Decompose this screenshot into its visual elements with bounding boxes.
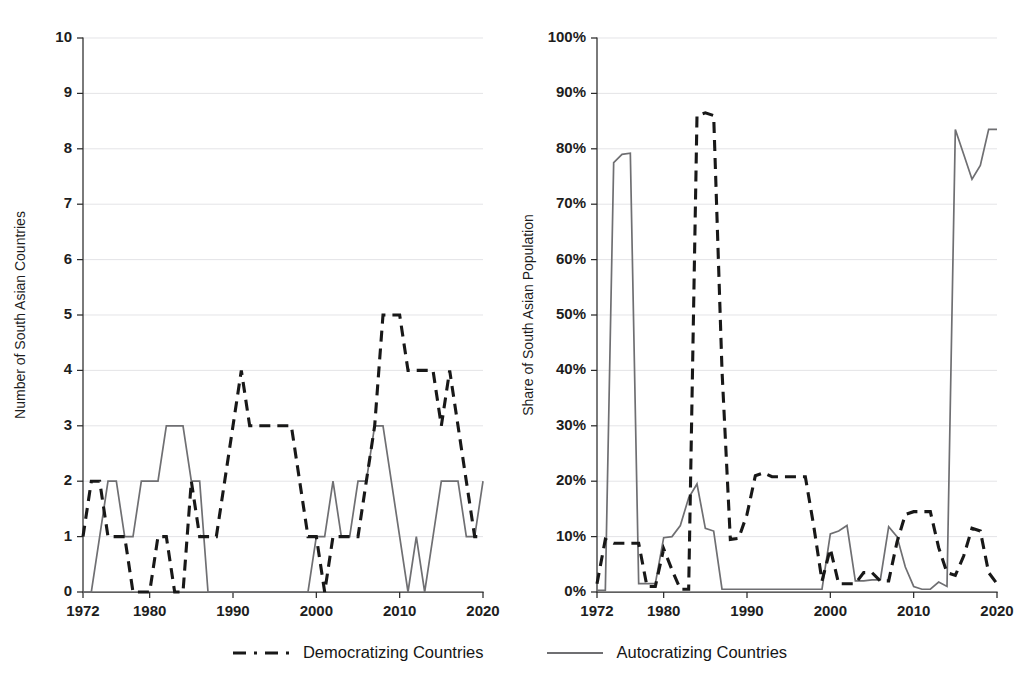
left-xticks: 197219801990200020102020	[66, 592, 499, 619]
x-tick-label: 2010	[897, 602, 930, 619]
y-tick-label: 0%	[564, 582, 586, 599]
right-gridlines	[597, 38, 997, 537]
y-tick-label: 20%	[556, 471, 586, 488]
y-tick-label: 2	[64, 471, 72, 488]
x-tick-label: 2000	[814, 602, 847, 619]
y-tick-label: 10%	[556, 527, 586, 544]
panel-right-population-share: 0%10%20%30%40%50%60%70%80%90%100% 197219…	[510, 0, 1019, 618]
y-tick-label: 90%	[556, 83, 586, 100]
left-y-axis-title: Number of South Asian Countries	[12, 211, 28, 419]
x-tick-label: 2020	[466, 602, 499, 619]
y-tick-label: 9	[64, 83, 72, 100]
right-yticks: 0%10%20%30%40%50%60%70%80%90%100%	[548, 28, 597, 599]
y-tick-label: 3	[64, 416, 72, 433]
chart-right-svg: 0%10%20%30%40%50%60%70%80%90%100% 197219…	[510, 0, 1019, 618]
panel-left-country-counts: 012345678910 197219801990200020102020 Nu…	[0, 0, 510, 618]
legend-label-autocratizing: Autocratizing Countries	[617, 643, 788, 662]
y-tick-label: 100%	[548, 28, 586, 45]
x-tick-label: 2020	[980, 602, 1013, 619]
y-tick-label: 4	[64, 360, 73, 377]
y-tick-label: 50%	[556, 305, 586, 322]
y-tick-label: 6	[64, 250, 72, 267]
legend-label-democratizing: Democratizing Countries	[303, 643, 484, 662]
legend-item-autocratizing: Autocratizing Countries	[546, 643, 788, 662]
y-tick-label: 7	[64, 194, 72, 211]
x-tick-label: 1980	[647, 602, 680, 619]
legend-item-democratizing: Democratizing Countries	[232, 643, 484, 662]
x-tick-label: 2010	[383, 602, 416, 619]
legend-swatch-solid-icon	[546, 647, 604, 659]
x-tick-label: 1972	[66, 602, 99, 619]
y-tick-label: 1	[64, 527, 72, 544]
left-yticks: 012345678910	[55, 28, 83, 599]
y-tick-label: 40%	[556, 360, 586, 377]
legend-swatch-dashed-icon	[232, 647, 290, 659]
y-tick-label: 70%	[556, 194, 586, 211]
y-tick-label: 0	[64, 582, 72, 599]
y-tick-label: 60%	[556, 250, 586, 267]
right-series-democratizing	[597, 113, 997, 589]
left-gridlines	[83, 38, 483, 537]
figure-root: 012345678910 197219801990200020102020 Nu…	[0, 0, 1019, 687]
y-tick-label: 10	[55, 28, 72, 45]
left-series-autocratizing	[83, 426, 483, 592]
y-tick-label: 30%	[556, 416, 586, 433]
chart-legend: Democratizing Countries Autocratizing Co…	[0, 618, 1019, 687]
right-xticks: 197219801990200020102020	[580, 592, 1013, 619]
x-tick-label: 2000	[300, 602, 333, 619]
y-tick-label: 80%	[556, 139, 586, 156]
chart-left-svg: 012345678910 197219801990200020102020 Nu…	[0, 0, 510, 618]
right-y-axis-title: Share of South Asian Population	[520, 214, 536, 416]
panel-container: 012345678910 197219801990200020102020 Nu…	[0, 0, 1019, 618]
x-tick-label: 1990	[730, 602, 763, 619]
x-tick-label: 1972	[580, 602, 613, 619]
right-series-autocratizing	[597, 129, 997, 590]
x-tick-label: 1980	[133, 602, 166, 619]
left-series-democratizing	[83, 315, 483, 592]
x-tick-label: 1990	[216, 602, 249, 619]
y-tick-label: 5	[64, 305, 72, 322]
y-tick-label: 8	[64, 139, 72, 156]
